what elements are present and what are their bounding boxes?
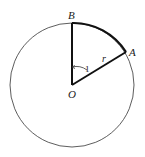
arc-ab [72, 23, 126, 52]
label-a: A [128, 46, 136, 58]
label-angle-1: 1 [85, 64, 90, 74]
sector-diagram: B A O r 1 [0, 0, 145, 157]
label-r: r [102, 53, 106, 64]
label-b: B [68, 9, 75, 21]
label-o: O [68, 88, 76, 100]
radius-oa [72, 52, 126, 85]
